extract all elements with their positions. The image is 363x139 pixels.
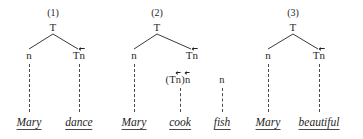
tree-3-left-node: n: [265, 50, 271, 61]
tree-2-leaf-1: Mary: [122, 116, 147, 130]
tree-2-lower-right-node: n: [219, 74, 224, 85]
tree-1-left-leaf-line: [29, 64, 30, 112]
tree-1-right-node-base: T: [73, 49, 80, 61]
tree-2-leaf-2: cook: [169, 116, 191, 130]
tree-3-right-node-base: T: [313, 49, 320, 61]
tree-1-right-leaf-line: [79, 64, 80, 112]
tree-2-right-node: Tn: [186, 50, 199, 61]
tree-3-leaf-1: Mary: [256, 116, 281, 130]
tree-2: (2) T n Tn (Tn)n n Mary cook fish: [118, 0, 248, 139]
tree-3-left-leaf-line: [268, 64, 269, 112]
tree-3: (3) T n Tn Mary beautiful: [240, 0, 363, 139]
tree-2-left-branch: [134, 34, 157, 49]
tree-2-lower-left-barred-inner: n: [176, 74, 181, 85]
tree-1-left-node: n: [26, 50, 32, 61]
tree-2-lower-left-outer-bar-icon: n: [185, 74, 190, 85]
tree-2-left-node: n: [131, 50, 137, 61]
tree-1-right-node-bar-icon: n: [80, 50, 86, 61]
tree-2-right-node-bar-icon: n: [193, 50, 199, 61]
tree-diagram-canvas: (1) T n Tn Mary dance (2) T n Tn (Tn)n: [0, 0, 363, 139]
tree-2-lower-left-prefix: (T: [166, 74, 176, 85]
tree-3-right-node-bar-icon: n: [320, 50, 326, 61]
tree-1-leaf-1: Mary: [17, 116, 42, 130]
tree-2-right-branch: [157, 34, 191, 49]
tree-1-leaf-2: dance: [65, 116, 92, 130]
tree-2-right-leaf-line: [222, 88, 223, 112]
tree-2-lower-left-inner-bar-icon: n: [176, 74, 181, 85]
tree-2-right-node-barred: n: [193, 49, 199, 61]
tree-3-right-leaf-line: [319, 64, 320, 112]
tree-1-left-branch: [29, 34, 53, 49]
tree-1-right-node: Tn: [73, 50, 86, 61]
tree-2-lower-left-barred-outer: n: [185, 74, 190, 85]
tree-1-right-node-barred: n: [80, 49, 86, 61]
tree-3-leaf-2: beautiful: [299, 116, 340, 130]
tree-2-right-node-base: T: [186, 49, 193, 61]
tree-1-right-branch: [53, 34, 78, 49]
tree-3-left-branch: [268, 34, 293, 49]
tree-2-mid-leaf-line: [180, 88, 181, 112]
tree-2-left-leaf-line: [134, 64, 135, 112]
tree-2-leaf-3: fish: [214, 116, 231, 130]
tree-1: (1) T n Tn Mary dance: [0, 0, 130, 139]
tree-3-right-branch: [293, 34, 318, 49]
tree-3-right-node-barred: n: [320, 49, 326, 61]
tree-2-lower-left-node: (Tn)n: [166, 74, 191, 85]
tree-3-right-node: Tn: [313, 50, 326, 61]
